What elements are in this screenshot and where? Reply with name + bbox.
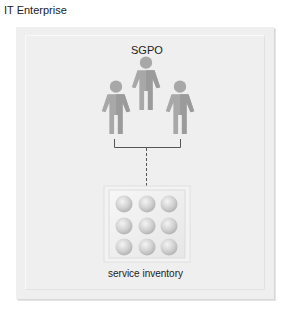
person-icon-center [132, 56, 160, 110]
person-icon-right [166, 80, 194, 134]
service-inventory-label: service inventory [0, 268, 291, 279]
person-icon-left [102, 80, 130, 134]
service-inventory-icon [104, 186, 190, 262]
group-bracket [115, 139, 181, 148]
inventory-sphere-grid [116, 196, 178, 256]
group-label-sgpo: SGPO [131, 44, 163, 56]
